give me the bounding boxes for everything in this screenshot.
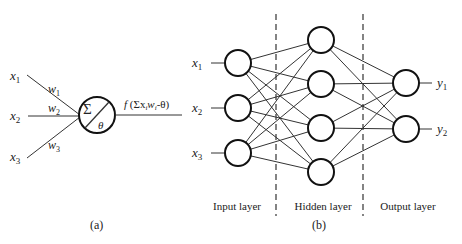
hidden-node-2 <box>308 71 334 97</box>
sum-symbol: Σ <box>83 101 92 117</box>
weight-label-w1: w1 <box>48 82 60 98</box>
input-label-x2: x2 <box>9 108 20 125</box>
input-node-1 <box>225 50 251 76</box>
input-node-2 <box>225 95 251 121</box>
hidden-node-3 <box>308 115 334 141</box>
panel-a-single-neuron: x1 x2 x3 w1 w2 w3 Σ θ f (Σxiwi-θ) (a) <box>9 68 182 232</box>
hidden-layer-label: Hidden layer <box>294 200 351 212</box>
weight-label-w2: w2 <box>48 101 60 117</box>
network-input-label-x2: x2 <box>191 100 202 117</box>
caption-a: (a) <box>90 218 103 232</box>
input-layer-label: Input layer <box>213 200 261 212</box>
network-input-label-x3: x3 <box>191 145 203 162</box>
hidden-node-4 <box>308 159 334 185</box>
input-label-x1: x1 <box>9 68 20 85</box>
output-node-1 <box>393 70 419 96</box>
network-output-label-y2: y2 <box>435 121 447 138</box>
activation-function-label: f (Σxiwi-θ) <box>124 98 170 112</box>
input-node-3 <box>225 140 251 166</box>
output-layer-label: Output layer <box>380 200 436 212</box>
output-node-2 <box>393 116 419 142</box>
caption-b: (b) <box>312 218 326 232</box>
weight-label-w3: w3 <box>48 138 60 154</box>
network-input-label-x1: x1 <box>191 55 202 72</box>
network-output-label-y1: y1 <box>435 75 447 92</box>
threshold-symbol: θ <box>98 119 104 131</box>
hidden-node-1 <box>308 27 334 53</box>
panel-b-network: x1 x2 x3 y1 y2 Input layer Hidden layer … <box>191 14 447 232</box>
input-label-x3: x3 <box>9 149 21 166</box>
neural-network-figure: x1 x2 x3 w1 w2 w3 Σ θ f (Σxiwi-θ) (a) <box>0 0 462 244</box>
